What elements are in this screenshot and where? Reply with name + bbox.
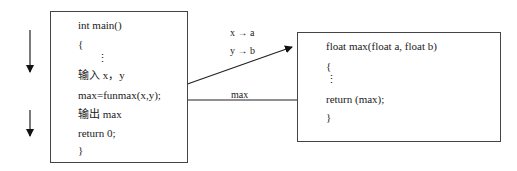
main-line-ellipsis: ⋮ [97, 52, 108, 65]
main-line-7: } [78, 144, 83, 157]
max-line-ellipsis: ⋮ [326, 73, 337, 86]
max-line-1: float max(float a, float b) [326, 40, 437, 53]
main-function-box [50, 11, 188, 163]
main-line-4: max=funmax(x,y); [78, 89, 161, 102]
main-line-6: return 0; [78, 127, 116, 140]
max-line-4: } [326, 111, 331, 124]
param-label-x: x → a [230, 27, 254, 38]
return-label: max [231, 89, 248, 100]
main-line-2: { [78, 38, 83, 51]
max-line-3: return (max); [326, 93, 384, 106]
main-line-3: 输入 x，y [78, 69, 125, 82]
param-label-y: y → b [230, 45, 255, 56]
main-line-5: 输出 max [78, 108, 122, 121]
main-line-1: int main() [78, 19, 122, 32]
max-line-2: { [326, 60, 331, 73]
